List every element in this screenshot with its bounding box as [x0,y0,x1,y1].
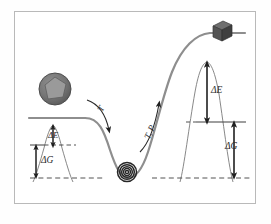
right-delta-g-label: ΔG [225,142,237,152]
left-delta-e-label: ΔE [48,131,58,140]
energy-profile-curve [29,33,245,178]
right-delta-e-label: ΔE [211,86,222,96]
cube-crystal-icon [213,21,232,41]
diagram-graphics [0,0,271,224]
left-delta-g-label: ΔG [41,156,53,166]
figure-canvas: ΔE ΔG ΔE ΔG T T, P [0,0,271,224]
faceted-nanoparticle-icon [39,73,71,105]
concentric-spiral-icon [118,163,137,182]
